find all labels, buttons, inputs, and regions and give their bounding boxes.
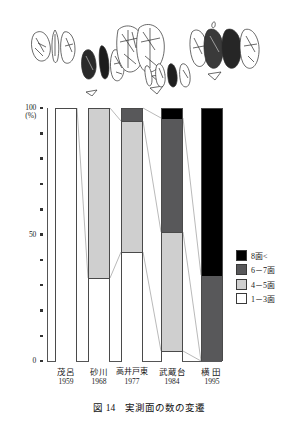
bar-moro[interactable] bbox=[55, 108, 77, 361]
figure-page: 100 (%) 50 0 bbox=[0, 0, 298, 430]
legend-label-8-plus: 8面< bbox=[251, 250, 268, 261]
y-tick-40 bbox=[40, 259, 43, 262]
bar-takaidohigashi-seg-4-5 bbox=[122, 122, 142, 253]
bar-sunagawa[interactable] bbox=[88, 108, 110, 361]
bar-takaidohigashi-seg-6-7 bbox=[122, 109, 142, 122]
bar-musashidai-seg-8-plus bbox=[162, 109, 182, 119]
y-tick-90 bbox=[40, 132, 43, 135]
legend-label-1-3: 1－3面 bbox=[251, 293, 275, 304]
stacked-bar-chart: 100 (%) 50 0 bbox=[0, 0, 298, 430]
bar-yokota-seg-8-plus bbox=[202, 109, 222, 276]
legend-item-4-5[interactable]: 4－5面 bbox=[236, 277, 296, 292]
y-tick-20 bbox=[40, 309, 43, 312]
y-tick-50 bbox=[40, 233, 43, 236]
x-year-yokota: 1995 bbox=[188, 377, 236, 386]
figure-caption-number: 図 14 bbox=[93, 403, 115, 413]
bar-musashidai[interactable] bbox=[161, 108, 183, 361]
legend-label-6-7: 6－7面 bbox=[251, 264, 275, 275]
legend-swatch-6-7-icon bbox=[236, 264, 247, 275]
bar-takaidohigashi-seg-1-3 bbox=[122, 253, 142, 362]
y-tick-0 bbox=[40, 360, 43, 363]
bar-yokota[interactable] bbox=[201, 108, 223, 361]
chart-legend: 8面< 6－7面 4－5面 1－3面 bbox=[236, 248, 296, 306]
y-tick-10 bbox=[40, 335, 43, 338]
legend-item-6-7[interactable]: 6－7面 bbox=[236, 263, 296, 278]
legend-swatch-8-plus-icon bbox=[236, 250, 247, 261]
bar-yokota-seg-6-7 bbox=[202, 276, 222, 362]
bar-takaidohigashi[interactable] bbox=[121, 108, 143, 361]
x-label-yokota: 横田 bbox=[188, 365, 236, 377]
legend-item-8-plus[interactable]: 8面< bbox=[236, 248, 296, 263]
figure-caption: 図 14 実測面の数の変遷 bbox=[0, 400, 298, 414]
y-tick-80 bbox=[40, 157, 43, 160]
y-axis-label-50: 50 bbox=[10, 230, 36, 239]
bar-moro-seg-1-3 bbox=[56, 109, 76, 362]
y-axis-unit-label: (%) bbox=[10, 111, 36, 120]
legend-label-4-5: 4－5面 bbox=[251, 279, 275, 290]
bar-sunagawa-seg-4-5 bbox=[89, 109, 109, 279]
legend-swatch-1-3-icon bbox=[236, 293, 247, 304]
y-axis-line bbox=[47, 108, 48, 362]
y-tick-100 bbox=[40, 107, 43, 110]
bar-musashidai-seg-4-5 bbox=[162, 233, 182, 352]
legend-swatch-4-5-icon bbox=[236, 279, 247, 290]
bar-musashidai-seg-6-7 bbox=[162, 119, 182, 233]
legend-item-1-3[interactable]: 1－3面 bbox=[236, 292, 296, 307]
figure-caption-text: 実測面の数の変遷 bbox=[125, 403, 205, 413]
y-axis-label-0: 0 bbox=[10, 356, 36, 365]
bar-musashidai-seg-1-3 bbox=[162, 352, 182, 362]
y-tick-60 bbox=[40, 208, 43, 211]
y-tick-30 bbox=[40, 284, 43, 287]
y-tick-70 bbox=[40, 183, 43, 186]
bar-sunagawa-seg-1-3 bbox=[89, 279, 109, 362]
